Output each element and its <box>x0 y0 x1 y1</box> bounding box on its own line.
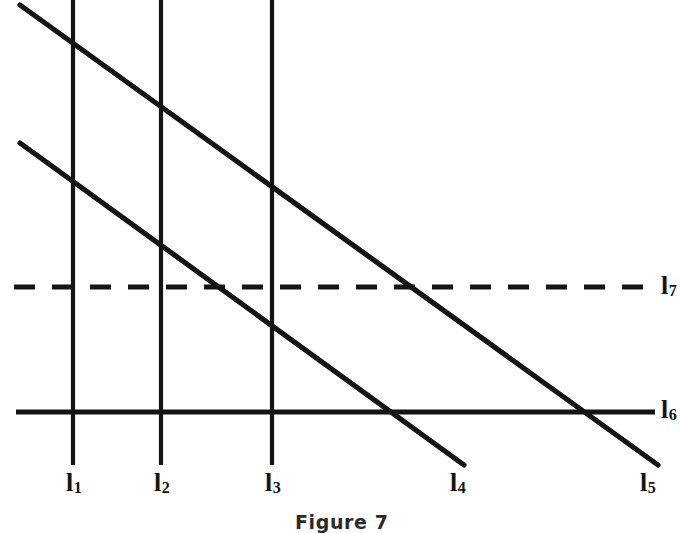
label-l4-sub: 4 <box>458 479 466 496</box>
label-l6-base: l <box>661 395 668 424</box>
label-l5: l5 <box>640 470 656 496</box>
label-l2-base: l <box>154 468 161 497</box>
label-l3-sub: 3 <box>273 479 281 496</box>
figure-caption: Figure 7 <box>295 511 389 533</box>
label-l4-base: l <box>450 468 457 497</box>
label-l7: l7 <box>661 273 677 299</box>
label-l1-base: l <box>66 468 73 497</box>
label-l5-sub: 5 <box>648 479 656 496</box>
label-l7-sub: 7 <box>669 282 677 299</box>
label-l6-sub: 6 <box>669 406 677 423</box>
label-l3-base: l <box>265 468 272 497</box>
label-l1: l1 <box>66 470 82 496</box>
line-l5 <box>20 5 658 465</box>
label-l2: l2 <box>154 470 170 496</box>
label-l1-sub: 1 <box>74 479 82 496</box>
label-l5-base: l <box>640 468 647 497</box>
label-l7-base: l <box>661 271 668 300</box>
label-l3: l3 <box>265 470 281 496</box>
label-l4: l4 <box>450 470 466 496</box>
label-l6: l6 <box>661 397 677 423</box>
label-l2-sub: 2 <box>162 479 170 496</box>
line-l4 <box>20 143 464 465</box>
